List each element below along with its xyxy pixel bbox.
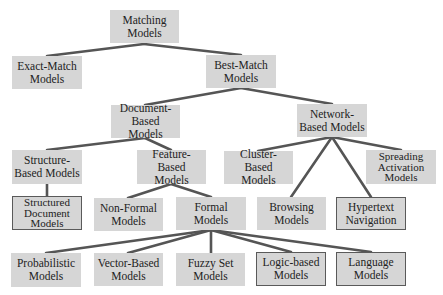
edge-formal-to-vector — [128, 230, 211, 253]
node-logic: Logic-basedModels — [256, 252, 326, 286]
edge-formal-to-probabilistic — [46, 230, 211, 253]
node-structure: Structure-Based Models — [12, 150, 82, 184]
node-label: FormalModels — [194, 201, 229, 227]
node-label: BrowsingModels — [269, 201, 314, 227]
node-hypertext: HypertextNavigation — [336, 197, 406, 230]
node-nonformal: Non-FormalModels — [94, 198, 163, 231]
edge-network-to-browsing — [291, 137, 332, 197]
node-label: Network-Based Models — [299, 108, 364, 134]
node-label: MatchingModels — [122, 14, 166, 40]
node-label: Best-MatchModels — [214, 59, 268, 85]
node-label: SpreadingActivationModels — [378, 151, 424, 183]
node-vector: Vector-BasedModels — [94, 253, 163, 286]
edge-formal-to-language — [211, 230, 371, 252]
node-label: HypertextNavigation — [345, 201, 396, 227]
edge-matching-to-exact — [47, 44, 144, 56]
node-label: Cluster-Based Models — [226, 148, 291, 187]
node-label: Non-FormalModels — [100, 202, 157, 228]
edge-best-to-network — [241, 88, 332, 104]
node-formal: FormalModels — [176, 197, 246, 230]
node-browsing: BrowsingModels — [257, 197, 326, 230]
node-structured: StructuredDocumentModels — [12, 196, 82, 230]
node-label: Vector-BasedModels — [98, 257, 160, 283]
node-spreading: SpreadingActivationModels — [366, 150, 436, 184]
node-feature: Feature-Based Models — [137, 150, 206, 184]
node-label: Structure-Based Models — [14, 154, 79, 180]
node-probabilistic: ProbabilisticModels — [11, 253, 81, 287]
node-best: Best-MatchModels — [206, 55, 276, 88]
edge-matching-to-best — [144, 44, 241, 55]
node-label: Logic-basedModels — [263, 256, 320, 282]
node-fuzzy: Fuzzy SetModels — [176, 253, 245, 286]
node-exact: Exact-MatchModels — [12, 56, 82, 89]
node-language: LanguageModels — [336, 252, 406, 286]
node-cluster: Cluster-Based Models — [224, 151, 293, 184]
node-label: Exact-MatchModels — [17, 60, 76, 86]
diagram-edges — [0, 0, 443, 295]
edge-formal-to-logic — [211, 230, 291, 252]
node-document: Document-Based Models — [111, 105, 180, 138]
node-label: ProbabilisticModels — [17, 257, 75, 283]
node-matching: MatchingModels — [110, 10, 179, 43]
node-network: Network-Based Models — [297, 104, 367, 137]
node-label: StructuredDocumentModels — [24, 197, 70, 229]
edge-network-to-spreading — [332, 137, 401, 150]
node-label: Feature-Based Models — [139, 148, 204, 187]
node-label: Fuzzy SetModels — [188, 257, 234, 283]
node-label: Document-Based Models — [113, 102, 178, 141]
node-label: LanguageModels — [348, 256, 393, 282]
